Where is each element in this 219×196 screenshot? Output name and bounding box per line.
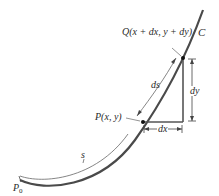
q-leader-line: [172, 48, 181, 56]
start-point-subscript: 0: [19, 187, 23, 195]
point-q: [181, 56, 185, 60]
start-point-label: P0: [13, 183, 23, 195]
arc-brace-s: [20, 134, 128, 179]
ds-arrow-head-top: [171, 58, 176, 64]
p-leader-line: [126, 118, 140, 121]
point-p: [141, 120, 145, 124]
ds-label: ds: [151, 80, 160, 90]
point-p-label: P(x, y): [95, 112, 122, 122]
dx-label: dx: [157, 124, 168, 134]
point-q-label: Q(x + dx, y + dy): [122, 27, 192, 37]
curve-label: C: [198, 27, 205, 38]
arc-length-diagram: C Q(x + dx, y + dy) P(x, y) ds dy dx s P…: [0, 0, 219, 196]
dy-label: dy: [190, 86, 199, 96]
s-label: s: [81, 150, 85, 160]
